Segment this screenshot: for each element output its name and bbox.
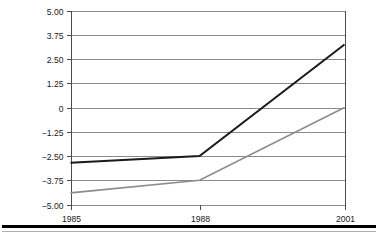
chart-container: 5.003.752.501.250−1.25−2.50−3.75−5.00 19… <box>0 0 378 238</box>
tickmarks-group <box>67 12 346 210</box>
x-tick-label-0: 1985 <box>62 214 81 224</box>
y-tick-label-1: 3.75 <box>47 31 64 41</box>
y-tick-label-8: −5.00 <box>42 201 64 211</box>
series-group <box>71 44 345 192</box>
line-chart-svg: 5.003.752.501.250−1.25−2.50−3.75−5.00 19… <box>0 0 378 238</box>
y-tick-label-5: −1.25 <box>42 128 64 138</box>
x-tick-labels-group: 198519882001 <box>62 214 355 224</box>
y-tick-labels-group: 5.003.752.501.250−1.25−2.50−3.75−5.00 <box>42 7 64 211</box>
x-tick-label-1: 1988 <box>191 214 210 224</box>
x-tick-label-2: 2001 <box>336 214 355 224</box>
y-tick-label-7: −3.75 <box>42 176 64 186</box>
bottom-rule-group <box>2 227 376 232</box>
y-tick-label-0: 5.00 <box>47 7 64 17</box>
y-tick-label-3: 1.25 <box>47 79 64 89</box>
series-line-series-black <box>71 44 345 162</box>
y-tick-label-2: 2.50 <box>47 55 64 65</box>
y-tick-label-6: −2.50 <box>42 152 64 162</box>
plot-area: 5.003.752.501.250−1.25−2.50−3.75−5.00 19… <box>0 0 378 238</box>
y-tick-label-4: 0 <box>59 104 64 114</box>
